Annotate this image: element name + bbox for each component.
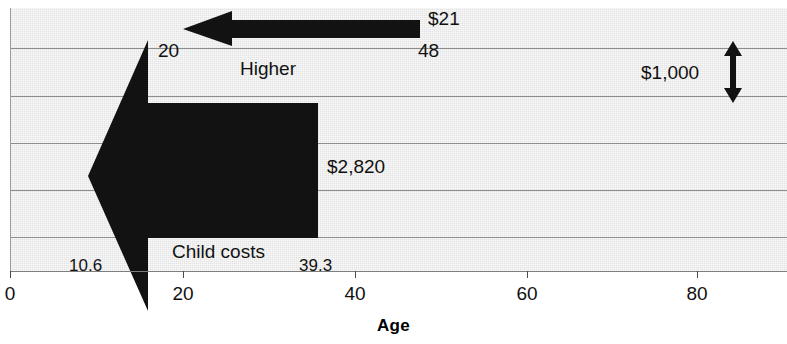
x-axis-tick-20 xyxy=(183,271,184,278)
label-child-costs-age-end: 39.3 xyxy=(299,255,332,276)
x-axis-tick-80 xyxy=(697,271,698,278)
x-axis-tick-60 xyxy=(527,271,528,278)
label-child-costs-text: Child costs xyxy=(172,241,265,262)
label-child-costs-age-start: 10.6 xyxy=(69,255,102,276)
label-child-costs-value: $2,820 xyxy=(327,156,385,177)
label-scale-value: $1,000 xyxy=(641,62,699,83)
chart-figure: (per week) 20 48 $21 Higher $1,000 $2,82… xyxy=(0,0,787,344)
gridline-5 xyxy=(11,237,787,238)
x-axis-title: Age xyxy=(0,316,787,336)
x-axis-label-0: 0 xyxy=(5,283,16,305)
label-higher-value: $21 xyxy=(428,8,460,29)
x-axis-line xyxy=(10,271,787,272)
x-axis-tick-0 xyxy=(10,271,11,278)
x-axis-tick-40 xyxy=(355,271,356,278)
x-axis-label-80: 80 xyxy=(686,283,707,305)
label-higher-text: Higher xyxy=(240,58,296,79)
plot-area xyxy=(10,8,787,271)
x-axis-label-40: 40 xyxy=(344,283,365,305)
label-higher-age-end: 48 xyxy=(418,40,439,61)
x-axis-label-60: 60 xyxy=(516,283,537,305)
label-higher-age-start: 20 xyxy=(158,40,179,61)
gridline-4 xyxy=(11,190,787,191)
gridline-2 xyxy=(11,96,787,97)
gridline-3 xyxy=(11,143,787,144)
x-axis-label-20: 20 xyxy=(172,283,193,305)
gridline-1 xyxy=(11,48,787,49)
